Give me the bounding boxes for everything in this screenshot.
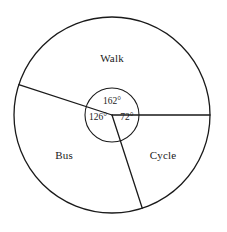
sector-label-bus: Bus bbox=[55, 149, 73, 161]
angle-label-bus: 126° bbox=[89, 112, 107, 122]
pie-chart-svg bbox=[0, 0, 227, 232]
sector-label-cycle: Cycle bbox=[150, 149, 177, 161]
sector-label-walk: Walk bbox=[100, 52, 124, 64]
angle-label-cycle: 72° bbox=[120, 112, 133, 122]
pie-chart-figure: Walk Bus Cycle 162° 126° 72° bbox=[0, 0, 227, 232]
angle-label-walk: 162° bbox=[103, 96, 121, 106]
